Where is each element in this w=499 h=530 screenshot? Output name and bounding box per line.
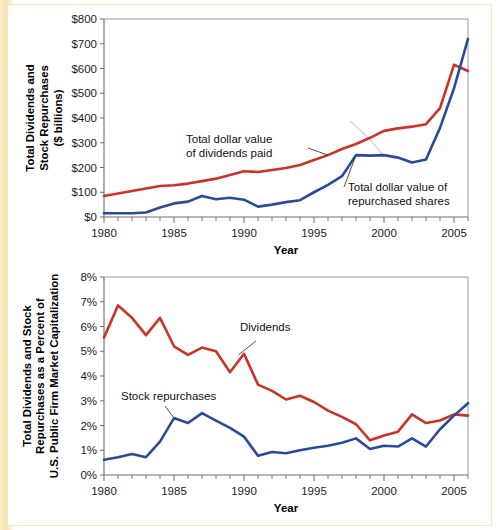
x-axis-title: Year	[274, 244, 299, 256]
y-tick-label: 8%	[80, 271, 97, 283]
y-tick-label: $300	[71, 137, 97, 149]
y-tick-label: $500	[71, 87, 97, 99]
y-tick-label: 6%	[80, 321, 97, 333]
y-axis-ticks: $0$100$200$300$400$500$600$700$800	[71, 13, 104, 223]
x-tick-label: 2000	[371, 485, 397, 497]
y-tick-label: $400	[71, 112, 97, 124]
y-axis-title-line: Total Dividends and	[24, 64, 36, 171]
x-axis-ticks: 198019851990199520002005	[91, 217, 468, 239]
chart-panel-bottom: 0%1%2%3%4%5%6%7%8%1980198519901995200020…	[8, 263, 491, 525]
x-tick-label: 1995	[301, 227, 327, 239]
annotation-text: Total dollar value of	[348, 181, 448, 193]
plot-frame	[104, 277, 468, 475]
y-tick-label: $100	[71, 186, 97, 198]
chart-top-svg: $0$100$200$300$400$500$600$700$800198019…	[8, 5, 491, 263]
y-tick-label: 1%	[80, 444, 97, 456]
x-tick-label: 1980	[91, 485, 117, 497]
annotation-text: Stock repurchases	[121, 390, 216, 402]
figure-container: $0$100$200$300$400$500$600$700$800198019…	[0, 0, 499, 530]
series-line-1	[104, 403, 468, 459]
y-tick-label: 2%	[80, 420, 97, 432]
y-tick-label: 4%	[80, 370, 97, 382]
annotation-text: Total dollar value	[186, 133, 272, 145]
y-axis-title-line: Total Dividends and Stock	[21, 305, 33, 447]
x-tick-label: 2005	[441, 227, 467, 239]
y-axis-title-line: Stock Repurchases	[38, 65, 50, 171]
x-tick-label: 1995	[301, 485, 327, 497]
annotation-text: of dividends paid	[186, 147, 272, 159]
y-tick-label: $0	[84, 211, 97, 223]
annotation-0: Total dollar valueof dividends paid	[186, 133, 328, 159]
y-axis-ticks: 0%1%2%3%4%5%6%7%8%	[80, 271, 104, 481]
series-line-0	[104, 65, 468, 196]
annotation-1: Total dollar value ofrepurchased shares	[344, 155, 450, 207]
x-tick-label: 2005	[441, 485, 467, 497]
y-axis-title-line: ($ billions)	[52, 89, 64, 146]
y-tick-label: 3%	[80, 395, 97, 407]
y-axis-title: Total Dividends and StockRepurchases as …	[21, 274, 60, 478]
x-tick-label: 1990	[231, 227, 257, 239]
x-tick-label: 1980	[91, 227, 117, 239]
annotation-text: repurchased shares	[348, 195, 450, 207]
x-tick-label: 2000	[371, 227, 397, 239]
annotation-0: Dividends	[238, 321, 290, 355]
x-tick-label: 1985	[161, 227, 187, 239]
y-axis-title-line: U.S. Public Firm Market Capitalization	[48, 274, 60, 478]
y-axis-title-line: Repurchases as a Percent of	[34, 298, 46, 454]
y-tick-label: 7%	[80, 296, 97, 308]
chart-panel-top: $0$100$200$300$400$500$600$700$800198019…	[8, 5, 491, 263]
y-tick-label: 0%	[80, 469, 97, 481]
plot-axes	[104, 277, 468, 475]
annotation-leader	[308, 148, 328, 155]
annotation-text: Dividends	[240, 321, 291, 333]
x-axis-ticks: 198019851990199520002005	[91, 475, 468, 497]
figure-white-area: $0$100$200$300$400$500$600$700$800198019…	[8, 5, 491, 525]
x-axis-title: Year	[274, 502, 299, 514]
annotation-leader	[238, 341, 256, 355]
y-tick-label: 5%	[80, 345, 97, 357]
chart-bottom-svg: 0%1%2%3%4%5%6%7%8%1980198519901995200020…	[8, 263, 491, 525]
y-tick-label: $600	[71, 63, 97, 75]
x-tick-label: 1990	[231, 485, 257, 497]
y-axis-title: Total Dividends andStock Repurchases($ b…	[24, 64, 64, 171]
annotation-leader	[165, 406, 174, 418]
y-tick-label: $200	[71, 162, 97, 174]
y-tick-label: $700	[71, 38, 97, 50]
y-tick-label: $800	[71, 13, 97, 25]
x-tick-label: 1985	[161, 485, 187, 497]
